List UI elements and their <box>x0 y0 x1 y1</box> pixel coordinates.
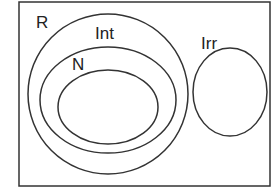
venn-diagram: R Int N Irr <box>0 0 276 190</box>
label-r: R <box>36 13 48 32</box>
label-n: N <box>72 55 84 74</box>
label-irr: Irr <box>201 34 217 53</box>
set-int-ellipse <box>40 47 176 153</box>
label-int: Int <box>95 24 114 43</box>
set-n-ellipse <box>58 70 158 144</box>
set-irr-ellipse <box>193 48 267 136</box>
universe-frame <box>19 2 270 186</box>
